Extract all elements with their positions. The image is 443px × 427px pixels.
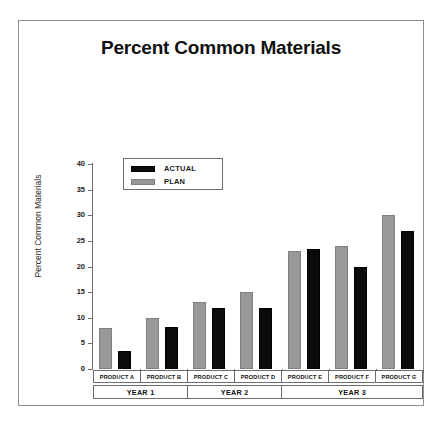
y-axis-tick-label: 25: [65, 236, 85, 245]
bar-group: [93, 164, 140, 369]
category-cell: PRODUCT A: [94, 371, 141, 382]
y-axis-tick-label: 0: [65, 364, 85, 373]
legend-swatch-actual: [131, 166, 155, 172]
bar-plan[interactable]: [382, 215, 395, 369]
bar-group: [234, 164, 281, 369]
chart-frame: Percent Common Materials Percent Common …: [18, 20, 424, 406]
legend-item[interactable]: ACTUAL: [131, 163, 222, 174]
bar-group: [376, 164, 423, 369]
category-cell: PRODUCT D: [235, 371, 282, 382]
bar-actual[interactable]: [212, 308, 225, 370]
y-axis-title: Percent Common Materials: [33, 131, 43, 321]
bar-plan[interactable]: [193, 302, 206, 369]
category-cell: PRODUCT B: [141, 371, 188, 382]
bar-actual[interactable]: [307, 249, 320, 369]
bar-actual[interactable]: [165, 327, 178, 369]
y-axis-tick-label: 15: [65, 287, 85, 296]
bar-group: [187, 164, 234, 369]
category-cell: PRODUCT E: [282, 371, 329, 382]
category-label-band: PRODUCT APRODUCT BPRODUCT CPRODUCT DPROD…: [93, 370, 423, 383]
legend-label: PLAN: [164, 177, 185, 186]
bar-plan[interactable]: [146, 318, 159, 369]
x-axis-tick: [423, 369, 424, 373]
y-axis-tick-label: 10: [65, 313, 85, 322]
legend-swatch-plan: [131, 179, 155, 185]
bar-plan[interactable]: [335, 246, 348, 369]
year-cell: YEAR 1: [94, 386, 188, 398]
category-cell: PRODUCT G: [376, 371, 422, 382]
y-axis-tick-label: 40: [65, 159, 85, 168]
bar-group: [329, 164, 376, 369]
year-cell: YEAR 2: [188, 386, 282, 398]
y-axis-tick-label: 5: [65, 338, 85, 347]
chart-legend: ACTUALPLAN: [123, 158, 223, 190]
bar-plan[interactable]: [288, 251, 301, 369]
year-label-band: YEAR 1YEAR 2YEAR 3: [93, 385, 423, 399]
bar-group: [140, 164, 187, 369]
bar-group: [282, 164, 329, 369]
y-axis-tick-label: 30: [65, 210, 85, 219]
bar-actual[interactable]: [259, 308, 272, 370]
category-cell: PRODUCT F: [329, 371, 376, 382]
bar-plan[interactable]: [99, 328, 112, 369]
plot-area: 0510152025303540: [93, 164, 423, 369]
bar-actual[interactable]: [401, 231, 414, 369]
bar-actual[interactable]: [354, 267, 367, 370]
bar-actual[interactable]: [118, 351, 131, 369]
y-axis-tick-label: 35: [65, 185, 85, 194]
year-cell: YEAR 3: [282, 386, 422, 398]
chart-title: Percent Common Materials: [19, 37, 423, 59]
y-axis-tick-label: 20: [65, 262, 85, 271]
legend-label: ACTUAL: [164, 164, 196, 173]
legend-item[interactable]: PLAN: [131, 176, 222, 187]
bar-plan[interactable]: [240, 292, 253, 369]
category-cell: PRODUCT C: [188, 371, 235, 382]
